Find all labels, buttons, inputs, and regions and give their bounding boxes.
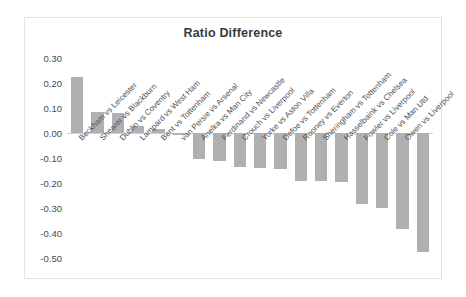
x-axis-category-label: Ferdinand vs Newcastle xyxy=(220,76,287,143)
x-axis-category-label: van Persie vs Arsenal xyxy=(179,82,240,143)
x-axis-category-labels: Beckham vs LeicesterShearer vs Blackburn… xyxy=(67,58,433,258)
y-axis-tick-label: 0.20 xyxy=(44,78,63,89)
x-axis-category-label: Rooney vs Everton xyxy=(301,88,355,142)
x-axis-category-label: Lampard vs West Ham xyxy=(138,79,202,143)
y-axis-tick-label: -0.10 xyxy=(40,153,62,164)
y-axis-tick-label: -0.20 xyxy=(40,178,62,189)
x-axis-category-label: Owen vs Liverpool xyxy=(403,89,456,142)
y-axis-tick-label: 0.30 xyxy=(44,53,63,64)
x-axis-category-label: Anelka vs Man City xyxy=(199,88,254,143)
x-axis-category-label: Sheringham vs Tottenham xyxy=(321,70,393,142)
x-axis-category-label: Bent vs Tottenham xyxy=(159,89,212,142)
y-axis-tick-label: 0.00 xyxy=(44,128,63,139)
x-axis-category-label: Hasselbaink vs Chelsea xyxy=(342,76,409,143)
x-axis-category-label: Yorke vs Aston Villa xyxy=(260,87,316,143)
chart-container: Ratio Difference 0.300.200.100.00-0.10-0… xyxy=(24,17,442,279)
y-axis-tick-label: 0.10 xyxy=(44,103,63,114)
y-axis-tick-label: -0.50 xyxy=(40,253,62,264)
x-axis-category-label: Shearer vs Blackburn xyxy=(98,82,158,142)
x-axis-category-label: Cole vs Man Utd xyxy=(382,94,430,142)
x-axis-category-label: Crouch vs Liverpool xyxy=(240,86,296,142)
x-axis-category-label: Beckham vs Leicester xyxy=(77,81,139,143)
x-axis-category-label: Fowler vs Liverpool xyxy=(362,87,417,142)
y-axis-tick-label: -0.30 xyxy=(40,203,62,214)
x-axis-category-label: Dublin vs Coventry xyxy=(118,89,172,143)
chart-title: Ratio Difference xyxy=(25,26,441,40)
y-axis-tick-label: -0.40 xyxy=(40,228,62,239)
x-axis-category-label: Defoe vs Tottenham xyxy=(281,86,338,143)
